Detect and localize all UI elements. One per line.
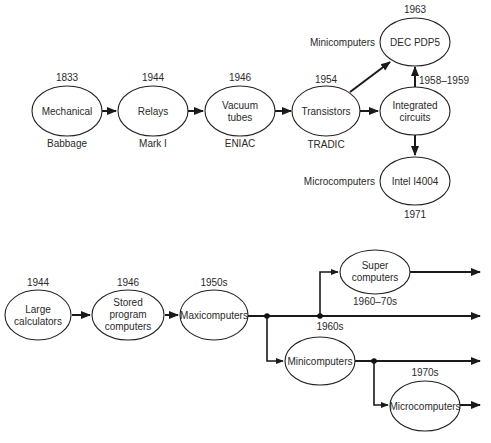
- category-label: Microcomputers: [304, 176, 375, 187]
- node-stored-program-computers: 1946 Stored program computers: [92, 277, 164, 340]
- year-label: 1971: [404, 209, 427, 220]
- node-label-line2: computers: [352, 272, 399, 283]
- year-label: 1944: [142, 72, 165, 83]
- node-transistors: 1954 Transistors TRADIC: [292, 74, 360, 150]
- node-intel-i4004: Intel I4004 Microcomputers 1971: [304, 157, 450, 220]
- node-label: Mechanical: [42, 106, 93, 117]
- node-label: Transistors: [301, 106, 350, 117]
- year-label: 1946: [229, 72, 252, 83]
- node-label: Maxicomputers: [180, 310, 248, 321]
- branch-to-mini: [267, 316, 283, 361]
- node-large-calculators: 1944 Large calculators: [5, 277, 71, 340]
- node-maxicomputers: 1950s Maxicomputers: [180, 277, 248, 340]
- computer-evolution-diagram: 1833 Mechanical Babbage 1944 Relays Mark…: [0, 0, 491, 443]
- node-label-line2: program: [109, 309, 146, 320]
- machine-label: Mark I: [139, 138, 167, 149]
- node-relays: 1944 Relays Mark I: [118, 72, 188, 149]
- year-label: 1960s: [316, 321, 343, 332]
- node-label-line1: Stored: [113, 297, 142, 308]
- node-label-line3: computers: [105, 321, 152, 332]
- node-label-line2: calculators: [14, 316, 62, 327]
- top-diagram: 1833 Mechanical Babbage 1944 Relays Mark…: [32, 4, 469, 220]
- branch-to-micro: [374, 361, 388, 405]
- node-label-line1: Large: [25, 304, 51, 315]
- arrow-transistors-pdp5: [350, 62, 390, 92]
- node-integrated-circuits: Integrated circuits: [380, 87, 450, 135]
- node-minicomputers: 1960s Minicomputers: [285, 321, 355, 385]
- node-label-line2: tubes: [228, 112, 252, 123]
- year-label: 1833: [56, 72, 79, 83]
- branch-to-super: [320, 272, 338, 316]
- node-label-line2: circuits: [399, 112, 430, 123]
- node-label: DEC PDP5: [390, 37, 440, 48]
- machine-label: Babbage: [47, 138, 87, 149]
- machine-label: TRADIC: [307, 139, 344, 150]
- node-vacuum-tubes: 1946 Vacuum tubes ENIAC: [205, 72, 275, 149]
- node-super-computers: Super computers 1960–70s: [340, 250, 410, 307]
- node-label-line1: Integrated: [392, 100, 437, 111]
- node-microcomputers: 1970s Microcomputers: [389, 367, 460, 431]
- node-label: Microcomputers: [389, 401, 460, 412]
- node-label: Relays: [138, 106, 169, 117]
- year-label: 1950s: [200, 277, 227, 288]
- year-label: 1963: [404, 4, 427, 15]
- node-dec-pdp5: 1963 DEC PDP5 Minicomputers: [310, 4, 450, 66]
- node-label: Minicomputers: [287, 356, 352, 367]
- year-label: 1960–70s: [353, 296, 397, 307]
- year-label: 1946: [117, 277, 140, 288]
- category-label: Minicomputers: [310, 37, 375, 48]
- node-label-line1: Super: [362, 260, 389, 271]
- bottom-diagram: 1944 Large calculators 1946 Stored progr…: [5, 250, 480, 431]
- node-label-line1: Vacuum: [222, 100, 258, 111]
- year-label: 1954: [315, 74, 338, 85]
- year-label: 1970s: [411, 367, 438, 378]
- edge-label-1958-1959: 1958–1959: [419, 75, 469, 86]
- node-label: Intel I4004: [392, 176, 439, 187]
- machine-label: ENIAC: [225, 138, 256, 149]
- node-mechanical: 1833 Mechanical Babbage: [32, 72, 102, 149]
- year-label: 1944: [27, 277, 50, 288]
